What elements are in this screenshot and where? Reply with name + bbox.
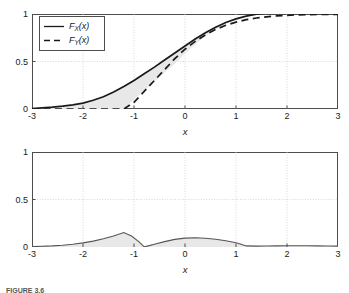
gridlines-bottom [32,152,338,247]
ytick-top-0: 0 [12,105,28,114]
xtick-top-m3: -3 [28,112,36,121]
xlabel-bottom: x [183,264,188,275]
ytick-top-1: 1 [12,10,28,19]
ytick-bottom-1: 1 [12,148,28,157]
plot-bottom [0,145,349,280]
xtick-top-3: 3 [335,112,340,121]
xtick-bottom-1: 1 [233,250,238,259]
legend-label-FY: FY(x) [69,35,89,45]
xtick-top-0: 0 [182,112,187,121]
xlabel-top: x [183,126,188,137]
ytick-bottom-0: 0 [12,243,28,252]
legend-top: FX(x) FY(x) [39,16,105,51]
legend-entry-FX: FX(x) [43,19,100,33]
xtick-bottom-2: 2 [284,250,289,259]
legend-line-dashed-icon [43,36,65,45]
xtick-bottom-0: 0 [182,250,187,259]
figure-container: 0 0.5 1 -3 -2 -1 0 1 2 3 x FX(x) [0,0,349,293]
legend-line-solid-icon [43,22,65,31]
tickmarks-bottom [32,200,287,248]
xtick-bottom-3: 3 [335,250,340,259]
figure-caption: FIGURE 3.6 [6,287,126,293]
ytick-top-0_5: 0.5 [6,57,28,66]
xtick-top-m1: -1 [130,112,138,121]
panel-cdf-comparison: 0 0.5 1 -3 -2 -1 0 1 2 3 x FX(x) [0,0,349,145]
xtick-bottom-m2: -2 [79,250,87,259]
panel-cdf-difference: 0 0.5 1 -3 -2 -1 0 1 2 3 x [0,145,349,280]
legend-entry-FY: FY(x) [43,33,100,47]
xtick-top-2: 2 [284,112,289,121]
legend-label-FX: FX(x) [69,21,89,31]
xtick-bottom-m1: -1 [130,250,138,259]
xtick-top-1: 1 [233,112,238,121]
xtick-bottom-m3: -3 [28,250,36,259]
ytick-bottom-0_5: 0.5 [6,195,28,204]
xtick-top-m2: -2 [79,112,87,121]
